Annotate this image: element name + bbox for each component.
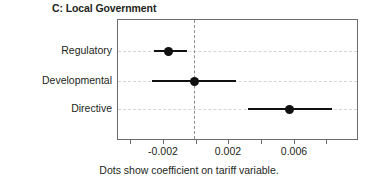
xtick-label-2: 0.006 — [281, 145, 307, 157]
y-axis-label-group: Regulatory Developmental Directive — [0, 19, 112, 140]
estimate-dot-directive — [285, 105, 294, 114]
estimate-dot-regulatory — [164, 47, 173, 56]
xtick-label-0: -0.002 — [148, 145, 178, 157]
coefficient-plot-figure: C: Local Government Regulatory Developme… — [0, 0, 378, 182]
estimate-dot-developmental — [190, 77, 199, 86]
ytick-label-regulatory: Regulatory — [61, 44, 112, 56]
plot-area — [117, 19, 358, 140]
xtick-mark-2 — [294, 140, 295, 144]
xtick-mark-1 — [228, 140, 229, 144]
ci-row-directive — [118, 103, 357, 115]
xtick-mark-minor-1 — [130, 140, 131, 144]
xtick-mark-minor-3 — [261, 140, 262, 144]
xtick-mark-minor-4 — [326, 140, 327, 144]
page-title: C: Local Government — [52, 2, 156, 14]
xtick-mark-0 — [163, 140, 164, 144]
ytick-label-directive: Directive — [71, 102, 112, 114]
ci-row-developmental — [118, 75, 357, 87]
xtick-label-1: 0.002 — [215, 145, 241, 157]
xtick-mark-minor-2 — [196, 140, 197, 144]
ytick-label-developmental: Developmental — [42, 74, 112, 86]
chart-caption: Dots show coefficient on tariff variable… — [0, 164, 378, 176]
ci-row-regulatory — [118, 45, 357, 57]
